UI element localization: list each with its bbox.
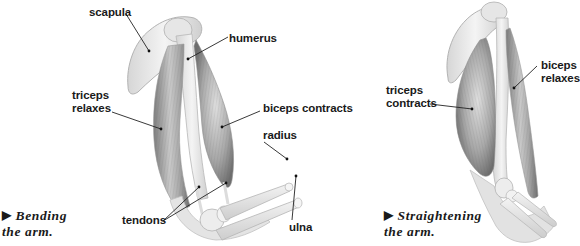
right-arm-art <box>447 2 556 242</box>
label-humerus: humerus <box>229 32 277 45</box>
triangle-marker-icon: ▶ <box>2 207 12 223</box>
arm-muscles-diagram: scapula humerus triceps relaxes biceps c… <box>0 0 580 246</box>
arm-illustration <box>0 0 580 246</box>
label-scapula: scapula <box>89 6 131 19</box>
label-ulna: ulna <box>289 221 312 234</box>
caption-straightening: ▶Straightening the arm. <box>384 208 482 240</box>
label-biceps-relaxes: biceps relaxes <box>541 59 580 85</box>
label-triceps-contracts: triceps contracts <box>386 84 437 110</box>
label-biceps-contracts: biceps contracts <box>263 102 353 115</box>
caption-bending: ▶Bending the arm. <box>2 208 67 240</box>
triangle-marker-icon: ▶ <box>384 207 394 223</box>
label-radius: radius <box>263 129 297 142</box>
label-tendons: tendons <box>122 214 166 227</box>
label-triceps-relaxes: triceps relaxes <box>72 89 111 115</box>
